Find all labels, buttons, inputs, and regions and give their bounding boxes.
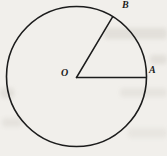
geometry-figure: [0, 0, 167, 156]
scanned-page: O A B: [0, 0, 167, 156]
center-point-label: O: [61, 68, 68, 78]
radius-ob-line: [77, 17, 113, 78]
point-b-label: B: [122, 0, 129, 10]
point-a-label: A: [149, 65, 156, 75]
